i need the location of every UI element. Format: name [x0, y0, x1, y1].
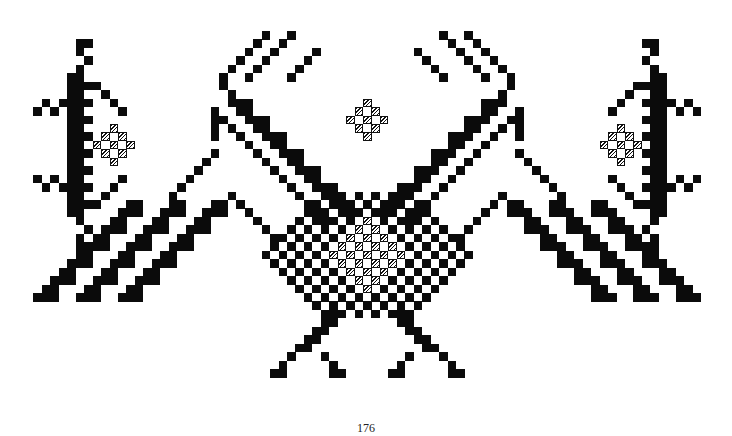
- filled-stitch: [262, 124, 271, 133]
- filled-stitch: [253, 149, 262, 158]
- filled-stitch: [295, 234, 304, 243]
- filled-stitch: [262, 56, 271, 65]
- filled-stitch: [650, 73, 659, 82]
- filled-stitch: [84, 259, 93, 268]
- hatched-stitch: [346, 268, 355, 277]
- filled-stitch: [481, 116, 490, 125]
- filled-stitch: [650, 192, 659, 201]
- filled-stitch: [608, 208, 617, 217]
- filled-stitch: [211, 208, 220, 217]
- filled-stitch: [346, 301, 355, 310]
- filled-stitch: [76, 208, 85, 217]
- filled-stitch: [456, 132, 465, 141]
- filled-stitch: [650, 158, 659, 167]
- filled-stitch: [33, 175, 42, 184]
- filled-stitch: [490, 56, 499, 65]
- filled-stitch: [464, 225, 473, 234]
- filled-stitch: [515, 124, 524, 133]
- filled-stitch: [431, 217, 440, 226]
- filled-stitch: [650, 39, 659, 48]
- filled-stitch: [371, 192, 380, 201]
- filled-stitch: [76, 132, 85, 141]
- filled-stitch: [473, 65, 482, 74]
- filled-stitch: [650, 166, 659, 175]
- filled-stitch: [507, 200, 516, 209]
- filled-stitch: [414, 234, 423, 243]
- filled-stitch: [456, 166, 465, 175]
- filled-stitch: [515, 200, 524, 209]
- filled-stitch: [262, 251, 271, 260]
- filled-stitch: [397, 268, 406, 277]
- hatched-stitch: [617, 124, 626, 133]
- filled-stitch: [279, 39, 288, 48]
- filled-stitch: [600, 293, 609, 302]
- filled-stitch: [194, 217, 203, 226]
- filled-stitch: [76, 65, 85, 74]
- filled-stitch: [481, 208, 490, 217]
- hatched-stitch: [633, 141, 642, 150]
- filled-stitch: [304, 276, 313, 285]
- hatched-stitch: [346, 251, 355, 260]
- filled-stitch: [498, 90, 507, 99]
- filled-stitch: [42, 183, 51, 192]
- filled-stitch: [135, 242, 144, 251]
- filled-stitch: [84, 200, 93, 209]
- filled-stitch: [76, 107, 85, 116]
- filled-stitch: [422, 335, 431, 344]
- filled-stitch: [532, 217, 541, 226]
- hatched-stitch: [101, 149, 110, 158]
- filled-stitch: [363, 200, 372, 209]
- filled-stitch: [59, 183, 68, 192]
- filled-stitch: [304, 335, 313, 344]
- filled-stitch: [608, 175, 617, 184]
- filled-stitch: [633, 276, 642, 285]
- filled-stitch: [414, 183, 423, 192]
- filled-stitch: [557, 259, 566, 268]
- filled-stitch: [591, 285, 600, 294]
- filled-stitch: [329, 268, 338, 277]
- hatched-stitch: [363, 99, 372, 108]
- filled-stitch: [448, 132, 457, 141]
- filled-stitch: [329, 200, 338, 209]
- filled-stitch: [253, 124, 262, 133]
- filled-stitch: [650, 234, 659, 243]
- filled-stitch: [414, 175, 423, 184]
- filled-stitch: [312, 200, 321, 209]
- filled-stitch: [312, 251, 321, 260]
- filled-stitch: [262, 158, 271, 167]
- filled-stitch: [219, 73, 228, 82]
- hatched-stitch: [397, 251, 406, 260]
- filled-stitch: [152, 217, 161, 226]
- filled-stitch: [84, 99, 93, 108]
- hatched-stitch: [380, 251, 389, 260]
- filled-stitch: [557, 208, 566, 217]
- filled-stitch: [464, 56, 473, 65]
- filled-stitch: [321, 310, 330, 319]
- filled-stitch: [608, 225, 617, 234]
- hatched-stitch: [126, 141, 135, 150]
- filled-stitch: [684, 293, 693, 302]
- filled-stitch: [50, 285, 59, 294]
- filled-stitch: [110, 276, 119, 285]
- filled-stitch: [388, 192, 397, 201]
- filled-stitch: [540, 242, 549, 251]
- filled-stitch: [456, 369, 465, 378]
- filled-stitch: [295, 217, 304, 226]
- hatched-stitch: [363, 251, 372, 260]
- hatched-stitch: [118, 149, 127, 158]
- filled-stitch: [405, 259, 414, 268]
- filled-stitch: [143, 242, 152, 251]
- filled-stitch: [295, 65, 304, 74]
- filled-stitch: [659, 99, 668, 108]
- filled-stitch: [439, 225, 448, 234]
- hatched-stitch: [388, 242, 397, 251]
- filled-stitch: [422, 208, 431, 217]
- filled-stitch: [659, 208, 668, 217]
- filled-stitch: [642, 251, 651, 260]
- filled-stitch: [50, 107, 59, 116]
- filled-stitch: [659, 90, 668, 99]
- filled-stitch: [659, 107, 668, 116]
- filled-stitch: [312, 335, 321, 344]
- filled-stitch: [650, 175, 659, 184]
- filled-stitch: [414, 200, 423, 209]
